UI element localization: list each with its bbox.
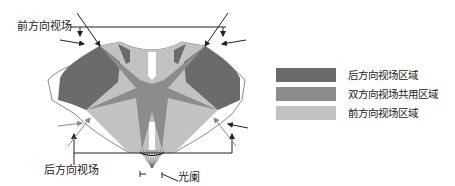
aperture-label: 光阑 [178,172,200,184]
center-slit-top [148,52,156,80]
front-view-label: 前方向视场 [17,21,72,33]
legend-swatch-rear [276,68,336,82]
aperture-mark-left [140,171,146,177]
legend-item-rear: 后方向视场区域 [276,66,438,83]
aperture-mark-right [162,172,178,181]
legend-swatch-front [276,106,336,120]
rear-view-label: 后方向视场 [44,165,99,177]
legend: 后方向视场区域 双方向视场共用区域 前方向视场区域 [276,66,438,123]
legend-item-shared: 双方向视场共用区域 [276,85,438,102]
legend-label-shared: 双方向视场共用区域 [348,86,438,101]
legend-item-front: 前方向视场区域 [276,104,438,121]
legend-swatch-shared [276,87,336,101]
legend-label-front: 前方向视场区域 [348,105,418,120]
center-slit-bottom [149,122,155,150]
legend-label-rear: 后方向视场区域 [348,67,418,82]
